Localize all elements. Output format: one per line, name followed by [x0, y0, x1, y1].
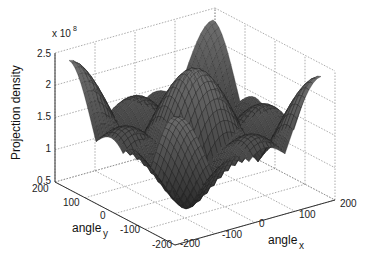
z-ticks: 2.5 2 1.5 1 0.5	[37, 48, 51, 186]
x-axis-label-text: angle	[268, 233, 298, 247]
z-tick: 2	[45, 79, 51, 90]
surface-plot: 2.5 2 1.5 1 0.5 x 10 8 200 100 0 -100 -2…	[0, 0, 365, 263]
surface-mesh	[69, 20, 321, 209]
y-ticks: 200 100 0 -100 -200	[32, 183, 172, 250]
y-axis-label-text: angle	[72, 221, 102, 235]
y-tick: 0	[100, 210, 106, 221]
y-axis-line	[55, 182, 175, 245]
z-exponent: x 10 8	[52, 25, 77, 39]
x-axis-label: angle x	[268, 233, 304, 251]
x-tick: 100	[299, 209, 316, 220]
y-tick: -200	[152, 239, 172, 250]
x-tick: -100	[222, 229, 242, 240]
z-exponent-power: 8	[73, 25, 77, 32]
x-tick: 200	[340, 198, 357, 209]
z-tick: 1.5	[37, 111, 51, 122]
y-tick: 200	[32, 183, 49, 194]
z-tick: 1	[45, 143, 51, 154]
x-tick: 0	[259, 218, 265, 229]
y-tick: -100	[120, 224, 140, 235]
z-axis-label: Projection density	[9, 65, 23, 160]
z-exponent-base: x 10	[52, 28, 71, 39]
y-axis-label-sub: y	[103, 228, 108, 239]
x-axis-label-sub: x	[299, 240, 304, 251]
y-axis-label: angle y	[72, 221, 108, 239]
y-tick: 100	[63, 197, 80, 208]
z-tick: 2.5	[37, 48, 51, 59]
x-tick: -200	[180, 238, 200, 249]
